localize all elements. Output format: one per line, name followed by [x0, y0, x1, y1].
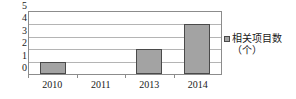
square-marker-icon — [224, 36, 230, 42]
y-tick-label-1: 1 — [14, 51, 27, 61]
y-tick-label-4: 4 — [14, 13, 27, 23]
x-tick-mark-2 — [125, 74, 126, 78]
x-axis-category-labels: 2010 2011 2013 2014 — [28, 79, 222, 93]
bar-2014 — [184, 24, 210, 74]
y-tick-label-3: 3 — [14, 26, 27, 36]
bar-2010 — [40, 62, 66, 74]
chart-legend: 相关项目数（个） — [224, 33, 296, 57]
x-label-2011: 2011 — [77, 79, 126, 93]
x-tick-mark-0 — [28, 74, 29, 78]
legend-item-label: 相关项目数（个） — [232, 33, 296, 57]
bar-slot-2014 — [173, 12, 221, 74]
plot-area — [28, 11, 222, 75]
bar-chart: 5 4 3 2 1 0 — [0, 0, 296, 99]
x-tick-mark-1 — [77, 74, 78, 78]
y-tick-label-2: 2 — [14, 38, 27, 48]
y-axis-tick-labels: 5 4 3 2 1 0 — [14, 6, 27, 75]
y-tick-label-5: 5 — [14, 1, 27, 11]
x-label-2014: 2014 — [174, 79, 223, 93]
bar-slot-2010 — [29, 12, 77, 74]
bar-slot-2011 — [77, 12, 125, 74]
x-tick-mark-3 — [174, 74, 175, 78]
bars-layer — [29, 12, 221, 74]
bar-2013 — [136, 49, 162, 74]
x-label-2010: 2010 — [28, 79, 77, 93]
bar-slot-2013 — [125, 12, 173, 74]
x-label-2013: 2013 — [125, 79, 174, 93]
y-tick-label-0: 0 — [14, 63, 27, 73]
